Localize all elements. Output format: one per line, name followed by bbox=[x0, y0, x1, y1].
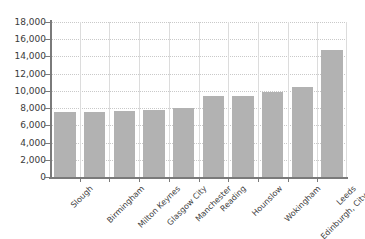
y-axis-tick bbox=[44, 91, 50, 92]
y-axis-tick bbox=[44, 160, 50, 161]
bar bbox=[321, 50, 342, 177]
y-axis-tick bbox=[44, 39, 50, 40]
bar-chart: 02,0004,0006,0008,00010,00012,00014,0001… bbox=[0, 0, 365, 239]
x-axis-tick-label: Hounslow bbox=[250, 184, 284, 218]
gridline-vertical bbox=[169, 22, 170, 177]
y-axis-tick-label: 12,000 bbox=[2, 70, 46, 79]
y-axis-tick bbox=[44, 143, 50, 144]
bar bbox=[292, 87, 313, 177]
y-axis-line bbox=[50, 20, 52, 179]
x-axis-tick bbox=[288, 177, 289, 182]
x-axis-tick bbox=[199, 177, 200, 182]
y-axis-tick-label: 8,000 bbox=[2, 104, 46, 113]
y-axis-tick bbox=[44, 177, 50, 178]
plot-area bbox=[50, 22, 347, 177]
y-axis-tick bbox=[44, 22, 50, 23]
x-axis-tick bbox=[169, 177, 170, 182]
x-axis-tick bbox=[109, 177, 110, 182]
gridline-vertical bbox=[317, 22, 318, 177]
y-axis-tick bbox=[44, 125, 50, 126]
y-axis-tick-label: 0 bbox=[2, 173, 46, 182]
gridline-vertical bbox=[139, 22, 140, 177]
gridline-vertical bbox=[199, 22, 200, 177]
gridline-vertical bbox=[288, 22, 289, 177]
gridline-vertical bbox=[80, 22, 81, 177]
bar bbox=[173, 108, 194, 177]
x-axis-tick bbox=[80, 177, 81, 182]
y-axis-tick-label: 10,000 bbox=[2, 87, 46, 96]
y-axis-tick bbox=[44, 108, 50, 109]
bar bbox=[262, 92, 283, 177]
y-axis-tick-label: 2,000 bbox=[2, 156, 46, 165]
plot-right-edge bbox=[346, 22, 347, 177]
x-axis-tick-label: Wokingham bbox=[283, 184, 323, 224]
x-axis-tick bbox=[317, 177, 318, 182]
y-axis-tick bbox=[44, 74, 50, 75]
x-axis-tick bbox=[228, 177, 229, 182]
bar bbox=[54, 112, 75, 177]
bar bbox=[203, 96, 224, 177]
x-axis-tick bbox=[258, 177, 259, 182]
y-axis-tick-label: 6,000 bbox=[2, 121, 46, 130]
bar bbox=[143, 110, 164, 177]
y-axis-tick-label: 16,000 bbox=[2, 35, 46, 44]
y-axis-tick-label: 18,000 bbox=[2, 18, 46, 27]
bar bbox=[114, 111, 135, 177]
gridline-vertical bbox=[228, 22, 229, 177]
x-axis-tick-label: Slough bbox=[69, 184, 95, 210]
y-axis-tick-label: 4,000 bbox=[2, 139, 46, 148]
bar bbox=[84, 112, 105, 177]
y-axis-tick-label: 14,000 bbox=[2, 52, 46, 61]
gridline-vertical bbox=[109, 22, 110, 177]
bar bbox=[232, 96, 253, 177]
gridline-vertical bbox=[258, 22, 259, 177]
x-axis-tick bbox=[139, 177, 140, 182]
y-axis-tick bbox=[44, 56, 50, 57]
